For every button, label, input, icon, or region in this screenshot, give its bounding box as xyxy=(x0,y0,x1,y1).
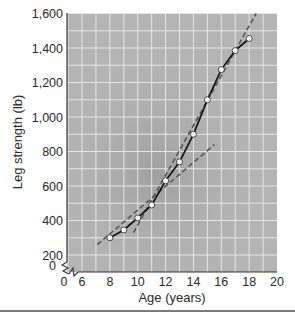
y-tick-label: 1,000 xyxy=(32,111,63,125)
x-tick-label: 8 xyxy=(106,275,113,289)
x-axis-title: Age (years) xyxy=(138,290,205,305)
y-tick-label: 400 xyxy=(42,214,63,228)
x-tick-label: 16 xyxy=(214,275,228,289)
data-point-marker xyxy=(204,97,210,103)
line-chart: 02004006008001,0001,2001,4001,600 068101… xyxy=(0,0,295,315)
data-point-marker xyxy=(121,227,127,233)
y-tick-label: 1,400 xyxy=(32,42,63,56)
x-axis-ticks: 068101214161820 xyxy=(61,275,284,289)
data-point-marker xyxy=(163,178,169,184)
data-point-marker xyxy=(177,159,183,165)
data-point-marker xyxy=(232,48,238,54)
x-tick-label: 10 xyxy=(131,275,145,289)
x-tick-label: 12 xyxy=(159,275,173,289)
bottom-divider xyxy=(0,310,295,312)
x-tick-label: 18 xyxy=(242,275,256,289)
data-point-marker xyxy=(190,131,196,137)
y-axis-ticks: 02004006008001,0001,2001,4001,600 xyxy=(32,7,63,273)
y-tick-label: 800 xyxy=(42,145,63,159)
y-tick-label: 200 xyxy=(42,249,63,263)
data-point-marker xyxy=(246,36,252,42)
x-tick-label: 6 xyxy=(79,275,86,289)
plot-shading xyxy=(67,13,277,272)
y-tick-label: 1,600 xyxy=(32,7,63,21)
x-tick-label: 0 xyxy=(61,275,68,289)
data-point-marker xyxy=(135,215,141,221)
y-axis-title: Leg strength (lb) xyxy=(10,95,25,190)
y-tick-label: 600 xyxy=(42,180,63,194)
x-tick-label: 14 xyxy=(186,275,200,289)
data-point-marker xyxy=(107,235,113,241)
data-point-marker xyxy=(218,67,224,73)
y-tick-label: 1,200 xyxy=(32,76,63,90)
data-point-marker xyxy=(149,202,155,208)
x-tick-label: 20 xyxy=(270,275,284,289)
